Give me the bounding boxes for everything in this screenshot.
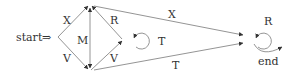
edge-label-top-end: X	[168, 8, 176, 21]
start-label: start	[16, 31, 43, 44]
state-diagram: start ⇒ X V M R V T X T R end	[0, 0, 298, 75]
edge-label-bottom-mid: V	[109, 52, 119, 65]
self-loop-mid	[134, 33, 149, 49]
edge-label-mid-self: T	[158, 35, 166, 48]
edge-label-top-mid: R	[110, 14, 119, 27]
edge-label-end-self: R	[264, 15, 273, 28]
end-label: end	[258, 55, 279, 68]
edge-label-top-bottom: M	[77, 34, 88, 47]
self-loop-end	[256, 33, 271, 49]
start-arrow-icon: ⇒	[42, 31, 51, 44]
edge-label-bottom-end: T	[172, 59, 180, 72]
edge-label-start-bottom: V	[62, 52, 72, 65]
edge-label-start-top: X	[63, 14, 71, 27]
